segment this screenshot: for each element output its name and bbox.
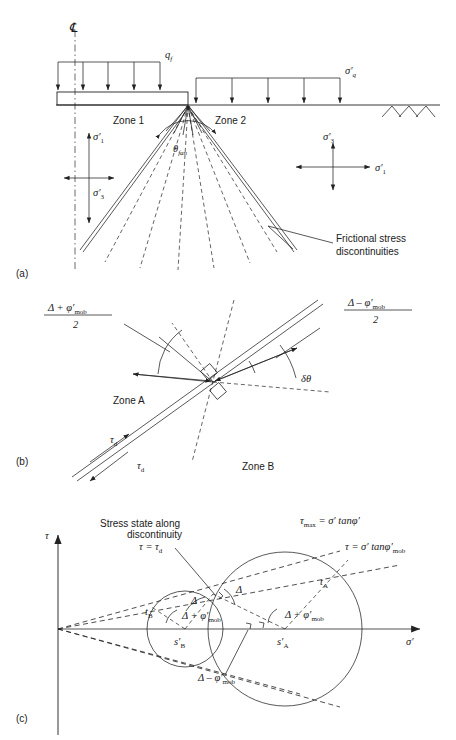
- label-sigma3-zone2: σ′3: [323, 131, 334, 145]
- callout-frictional-line2: discontinuities: [336, 246, 399, 257]
- angle-arc-sa: [268, 609, 277, 623]
- label-tau-d-upper: τd: [110, 434, 118, 448]
- label-tB: tB: [145, 606, 153, 620]
- stress-state-leader: [175, 548, 216, 596]
- angle-arc-sb: [166, 610, 177, 623]
- label-delta-right: Δ: [235, 584, 242, 595]
- soil-hatch-marks: [382, 106, 435, 117]
- label-delta-plus-phi-right: Δ + φ′mob: [284, 609, 324, 623]
- centerline-symbol: ℄: [69, 20, 78, 35]
- left-formula-leader: [124, 324, 170, 352]
- svg-text:2: 2: [373, 314, 379, 325]
- label-theta-fan: θfan: [173, 143, 188, 157]
- fan-dashed-lines: [105, 106, 277, 270]
- label-tA: tA: [320, 576, 328, 590]
- label-sigma1-zone2: σ′1: [375, 162, 386, 176]
- formula-left-angle: Δ + φ′mob 2: [44, 302, 112, 330]
- fan-outer-discontinuities: [80, 105, 297, 252]
- svg-text:Δ + φ′mob: Δ + φ′mob: [47, 302, 87, 316]
- right-formula-leader: [276, 328, 320, 358]
- label-tau-mob-envelope: τ = σ′ tanφ′mob: [345, 541, 406, 555]
- label-sigma-axis: σ′: [406, 636, 414, 647]
- label-sA: s′A: [277, 636, 288, 650]
- label-tau-max-envelope: τmax = σ′ tanφ′: [300, 515, 360, 529]
- panel-marker-c: (c): [16, 713, 28, 724]
- tau-mob-envelope: [58, 565, 400, 629]
- svg-text:Δ – φ′mob: Δ – φ′mob: [347, 297, 386, 311]
- label-zone-2: Zone 2: [215, 115, 247, 126]
- label-delta-left: Δ: [190, 595, 197, 606]
- surcharge-load-group: [196, 78, 340, 103]
- discontinuity-band: [72, 300, 323, 481]
- label-tau-d-lower: τd: [137, 460, 145, 474]
- label-zone-b: Zone B: [242, 461, 275, 472]
- zoneA-stress-arrows: [133, 374, 213, 382]
- callout-stress-state-line1: Stress state along: [100, 518, 180, 529]
- zoneB-principal-dashed: [213, 382, 330, 392]
- right-angle-tick-2: [259, 622, 264, 628]
- panel-marker-b: (b): [16, 456, 28, 467]
- footing-block: [57, 92, 188, 105]
- label-sigma3-zone1: σ′3: [93, 187, 104, 201]
- footing-load-group: [58, 62, 160, 90]
- technical-figure: qf σ′q: [0, 0, 456, 740]
- label-sigma-q: σ′q: [345, 65, 356, 79]
- callout-stress-state-line2: discontinuity: [127, 529, 182, 540]
- zoneA-angle-arm: [159, 337, 213, 382]
- label-qf: qf: [165, 49, 173, 63]
- chord-b-dashed: [150, 606, 185, 629]
- label-zone-a: Zone A: [113, 395, 145, 406]
- panel-b: Δ + φ′mob 2 Δ – φ′mob 2 δθ Zone A Zone B…: [16, 297, 412, 481]
- label-delta-minus-phi: Δ – φ′mob: [197, 672, 236, 686]
- label-zone-1: Zone 1: [113, 115, 145, 126]
- normal-dashed-line: [192, 300, 234, 462]
- label-sB: s′B: [174, 636, 185, 650]
- svg-text:2: 2: [73, 319, 79, 330]
- label-tau-axis: τ: [45, 530, 50, 541]
- label-delta-plus-phi-left: Δ + φ′mob: [181, 610, 221, 624]
- stress-cross-zone2: [296, 143, 370, 190]
- label-delta-theta: δθ: [301, 373, 311, 384]
- label-sigma1-zone1: σ′1: [93, 131, 104, 145]
- right-angle-tick-1: [246, 623, 251, 629]
- delta-minus-phi-leader: [225, 630, 248, 675]
- callout-stress-state-line3: τ = τd: [139, 541, 163, 555]
- formula-right-angle: Δ – φ′mob 2: [344, 297, 412, 325]
- stress-cross-zone1: [64, 133, 114, 223]
- panel-marker-a: (a): [16, 268, 28, 279]
- callout-frictional-line1: Frictional stress: [336, 233, 406, 244]
- panel-c: τ σ′ Stress state along discon: [16, 515, 420, 735]
- panel-a: qf σ′q: [16, 30, 440, 279]
- apex-right-angle-tick: [219, 592, 223, 599]
- theta-fan-arc: [160, 121, 216, 134]
